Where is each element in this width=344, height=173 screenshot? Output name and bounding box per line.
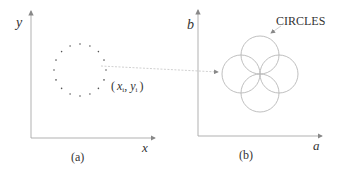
edge-point: [61, 51, 63, 53]
circles-annotation: CIRCLES: [276, 14, 325, 28]
parameter-circle: [241, 36, 279, 74]
edge-point: [53, 69, 55, 71]
edge-point: [79, 43, 81, 45]
edge-point: [105, 69, 107, 71]
panel-a-y-label: y: [14, 15, 23, 30]
panel-a: y x (a) (xi, yi): [14, 11, 155, 164]
edge-point: [103, 59, 105, 61]
hough-transform-diagram: y x (a) (xi, yi) b a (b) CIRCLES: [0, 0, 344, 173]
panel-a-caption: (a): [71, 150, 84, 164]
parameter-circle: [241, 74, 279, 112]
point-label: (xi, yi): [111, 79, 144, 94]
edge-point: [69, 45, 71, 47]
parameter-circles: [222, 36, 298, 112]
edge-point: [89, 93, 91, 95]
edge-point: [103, 79, 105, 81]
edge-point: [55, 79, 57, 81]
mapping-arrow: [101, 66, 218, 72]
edge-point: [89, 45, 91, 47]
dotted-circle: [53, 43, 107, 97]
edge-point: [79, 95, 81, 97]
panel-b-y-label: b: [187, 17, 194, 32]
edge-point: [98, 88, 100, 90]
edge-point: [55, 59, 57, 61]
parameter-circle: [260, 55, 298, 93]
edge-point: [98, 51, 100, 53]
panel-b-x-label: a: [313, 138, 320, 153]
edge-point: [61, 88, 63, 90]
parameter-circle: [222, 55, 260, 93]
panel-b: b a (b) CIRCLES: [187, 10, 325, 162]
panel-b-caption: (b): [239, 148, 253, 162]
edge-point: [69, 93, 71, 95]
panel-a-x-label: x: [141, 140, 148, 155]
